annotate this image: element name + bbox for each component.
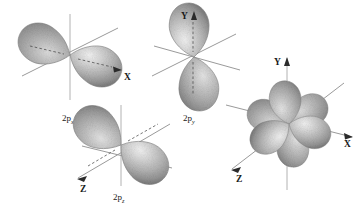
panel-py: Y 2py bbox=[152, 0, 240, 125]
comp-axis-label-z: Z bbox=[236, 174, 242, 184]
comp-y-arrowhead bbox=[284, 57, 290, 66]
panel-px: X 2px bbox=[13, 14, 131, 125]
pz-dash-upper bbox=[128, 124, 158, 141]
py-axis-label-y: Y bbox=[181, 11, 188, 21]
orbital-diagram-canvas: X 2px Y 2py bbox=[0, 0, 364, 209]
panel-composite: Y X Z bbox=[226, 57, 353, 190]
pz-z-arrowhead bbox=[77, 176, 87, 182]
px-lobe-positive bbox=[64, 39, 127, 92]
px-lobe-negative bbox=[13, 18, 76, 71]
orbital-figure: X 2px Y 2py bbox=[0, 0, 364, 209]
px-axis-label-x: X bbox=[124, 72, 131, 82]
panel-pz: Z 2pz bbox=[65, 98, 176, 204]
comp-axis-label-y: Y bbox=[274, 57, 281, 67]
py-orbital-label: 2py bbox=[183, 113, 195, 125]
py-lobe-positive bbox=[164, 0, 216, 61]
pz-dash-lower bbox=[88, 150, 115, 166]
comp-z-arrowhead bbox=[231, 167, 241, 173]
comp-axis-label-x: X bbox=[344, 139, 351, 149]
pz-axis-label-z: Z bbox=[80, 184, 86, 194]
pz-orbital-label: 2pz bbox=[113, 192, 125, 204]
px-orbital-label: 2px bbox=[62, 113, 74, 125]
